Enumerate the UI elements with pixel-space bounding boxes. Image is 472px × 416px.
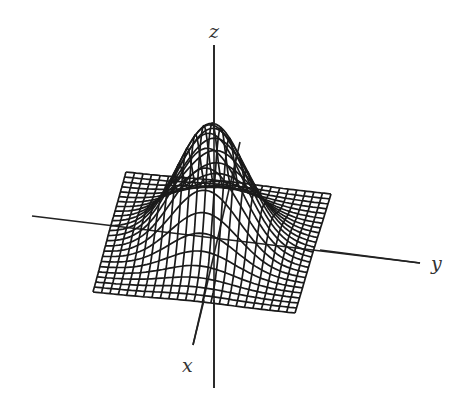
axes	[32, 45, 420, 388]
z-axis-label: z	[209, 22, 219, 41]
y-axis-right-segment	[320, 250, 420, 263]
x-axis-label: x	[182, 356, 193, 375]
wire-line-x-direction	[101, 173, 134, 293]
gaussian-wireframe-surface	[93, 123, 331, 313]
wireframe-surface-plot	[0, 0, 472, 416]
wire-line-x-direction	[177, 135, 211, 300]
y-axis-label: y	[431, 254, 442, 273]
x-axis-lower-segment	[193, 300, 204, 345]
